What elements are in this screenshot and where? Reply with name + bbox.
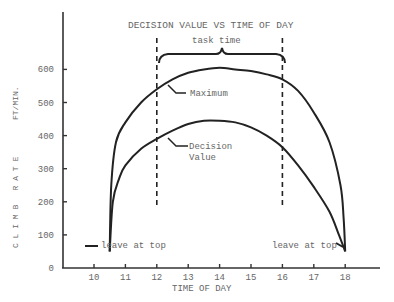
x-tick-label: 14 bbox=[214, 273, 225, 283]
y-tick-label: 0 bbox=[49, 264, 54, 274]
x-tick-label: 15 bbox=[246, 273, 257, 283]
y-tick-label: 400 bbox=[38, 132, 54, 142]
x-tick-label: 10 bbox=[89, 273, 100, 283]
x-tick-label: 17 bbox=[308, 273, 319, 283]
task-time-label: task time bbox=[192, 36, 241, 46]
x-axis-label: TIME OF DAY bbox=[172, 284, 232, 294]
chart-title: DECISION VALUE VS TIME OF DAY bbox=[128, 20, 294, 31]
leave-at-top-left-label: leave at top bbox=[101, 241, 166, 251]
y-tick-label: 300 bbox=[38, 165, 54, 175]
decision-value-label-line2: Value bbox=[189, 153, 216, 163]
decision-value-curve bbox=[110, 120, 346, 251]
y-tick-label: 500 bbox=[38, 99, 54, 109]
x-tick-label: 13 bbox=[183, 273, 194, 283]
maximum-label: Maximum bbox=[190, 89, 228, 99]
chart: 0100200300400500600 101112131415161718 D… bbox=[0, 0, 394, 302]
decision-value-pointer bbox=[168, 138, 188, 146]
y-tick-label: 100 bbox=[38, 231, 54, 241]
decision-value-label-line1: Decision bbox=[189, 142, 232, 152]
y-tick-label: 600 bbox=[38, 65, 54, 75]
y-axis-label-units: FT/MIN. bbox=[11, 86, 20, 120]
task-time-brace bbox=[159, 48, 285, 63]
maximum-pointer bbox=[168, 85, 186, 93]
x-tick-label: 16 bbox=[277, 273, 288, 283]
y-tick-label: 200 bbox=[38, 198, 54, 208]
leave-at-top-right-label: leave at top bbox=[272, 241, 337, 251]
x-tick-label: 18 bbox=[340, 273, 351, 283]
y-axis-label-climb-rate: C L I M B R A T E bbox=[11, 157, 20, 248]
x-tick-label: 11 bbox=[120, 273, 131, 283]
x-axis-ticks: 101112131415161718 bbox=[89, 264, 351, 283]
x-tick-label: 12 bbox=[151, 273, 162, 283]
